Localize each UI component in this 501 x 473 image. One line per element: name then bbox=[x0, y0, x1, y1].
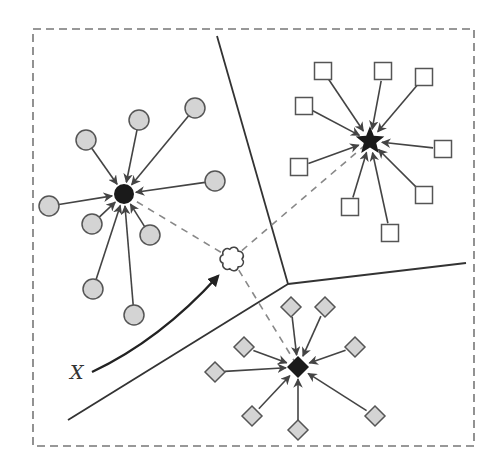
diamond-node bbox=[242, 406, 262, 426]
member-edge bbox=[329, 79, 364, 131]
boundary-line bbox=[68, 284, 288, 420]
member-edge bbox=[303, 316, 321, 356]
square-node bbox=[296, 98, 313, 115]
square-node bbox=[375, 63, 392, 80]
member-edge bbox=[372, 81, 381, 129]
query-label-x: X bbox=[68, 361, 85, 383]
diamond-node bbox=[345, 337, 365, 357]
circle-node bbox=[76, 130, 96, 150]
diamond-node bbox=[205, 362, 225, 382]
square-node bbox=[416, 69, 433, 86]
member-edge bbox=[99, 202, 115, 217]
circle-node bbox=[82, 214, 102, 234]
query-point-cloud-icon bbox=[220, 247, 243, 271]
dashed-frame bbox=[33, 29, 474, 446]
query-arrow bbox=[92, 276, 218, 372]
member-edge bbox=[373, 153, 388, 224]
member-edge bbox=[353, 152, 367, 197]
member-edge bbox=[308, 145, 358, 163]
diamond-node bbox=[365, 406, 385, 426]
boundary-line bbox=[217, 36, 288, 284]
square-node bbox=[416, 187, 433, 204]
voronoi-boundaries bbox=[68, 36, 466, 420]
diamond-node bbox=[281, 297, 301, 317]
cluster-edges bbox=[59, 79, 433, 420]
member-edge bbox=[308, 373, 366, 410]
circle-node bbox=[140, 225, 160, 245]
member-edge bbox=[382, 142, 433, 148]
circle-node bbox=[205, 171, 225, 191]
member-edge bbox=[292, 317, 296, 355]
member-edge bbox=[125, 206, 133, 305]
member-edge bbox=[309, 350, 345, 363]
circle-node bbox=[185, 98, 205, 118]
voronoi-cluster-diagram: X bbox=[0, 0, 501, 473]
cluster-members bbox=[39, 63, 452, 441]
diamond-centroid bbox=[287, 356, 309, 378]
square-node bbox=[291, 159, 308, 176]
square-node bbox=[315, 63, 332, 80]
square-node bbox=[435, 141, 452, 158]
member-edge bbox=[378, 149, 416, 187]
square-node bbox=[342, 199, 359, 216]
member-edge bbox=[130, 204, 144, 226]
diamond-node bbox=[315, 297, 335, 317]
circle-centroid bbox=[114, 184, 134, 204]
diamond-node bbox=[234, 337, 254, 357]
member-edge bbox=[253, 350, 286, 362]
circle-node bbox=[124, 305, 144, 325]
member-edge bbox=[92, 148, 117, 184]
member-edge bbox=[59, 196, 112, 205]
circle-node bbox=[39, 196, 59, 216]
member-edge bbox=[136, 182, 205, 192]
member-edge bbox=[126, 130, 137, 182]
diamond-node bbox=[288, 420, 308, 440]
distance-link-circles bbox=[124, 194, 232, 259]
member-edge bbox=[378, 85, 418, 132]
boundary-line bbox=[288, 263, 466, 284]
square-node bbox=[382, 225, 399, 242]
circle-node bbox=[83, 279, 103, 299]
circle-node bbox=[129, 110, 149, 130]
query-distance-links bbox=[124, 141, 370, 367]
member-edge bbox=[259, 376, 290, 409]
member-edge bbox=[225, 368, 286, 372]
